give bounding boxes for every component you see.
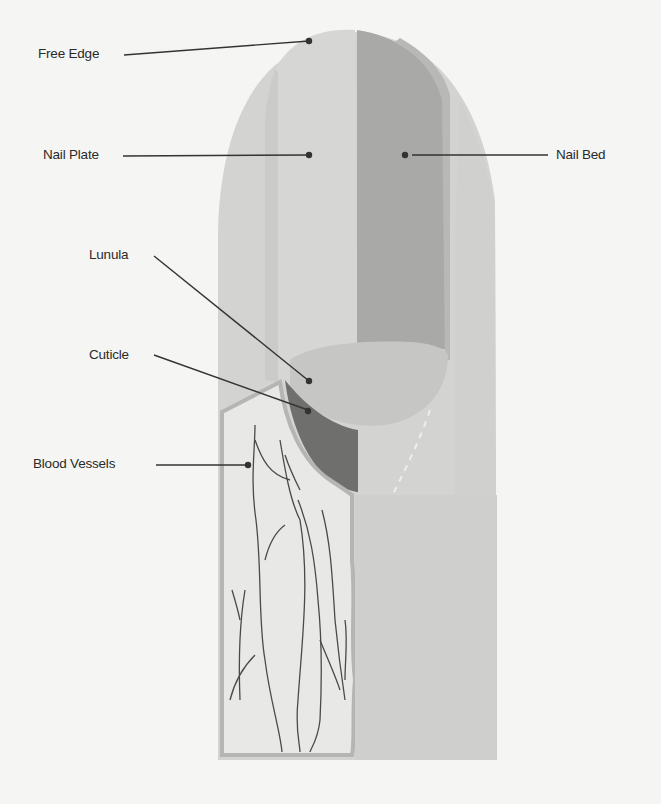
- label-free-edge: Free Edge: [38, 46, 99, 61]
- label-nail-plate: Nail Plate: [43, 147, 99, 162]
- label-cuticle: Cuticle: [89, 347, 129, 362]
- label-blood-vessels: Blood Vessels: [33, 456, 115, 471]
- label-nail-bed: Nail Bed: [556, 147, 605, 162]
- finger-base: [355, 495, 497, 760]
- nail-anatomy-diagram: [0, 0, 661, 804]
- label-lunula: Lunula: [89, 247, 128, 262]
- nail-plate-left-edge: [265, 70, 278, 382]
